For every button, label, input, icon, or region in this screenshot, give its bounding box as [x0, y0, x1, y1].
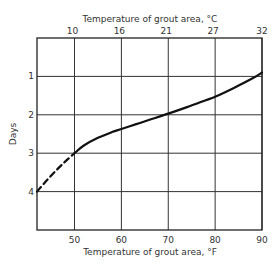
x2-tick-label: 21 — [161, 26, 172, 36]
x2-tick-label: 32 — [256, 26, 267, 36]
x-tick-label: 70 — [163, 235, 175, 245]
series-group — [37, 73, 262, 192]
x-tick-label: 50 — [69, 235, 81, 245]
plot-frame — [37, 38, 262, 230]
y-tick-labels: 1234 — [28, 71, 34, 196]
y-tick-label: 3 — [28, 148, 34, 158]
x-tick-label: 80 — [209, 235, 221, 245]
x2-tick-label: 27 — [207, 26, 218, 36]
y-axis-label: Days — [8, 122, 18, 145]
x-axis-label: Temperature of grout area, °F — [82, 247, 217, 257]
x2-tick-label: 16 — [114, 26, 126, 36]
series-line-extrapolated — [37, 153, 75, 191]
y-tick-label: 4 — [28, 187, 34, 197]
x-tick-label: 60 — [116, 235, 128, 245]
y-tick-label: 1 — [28, 71, 34, 81]
y-tick-label: 2 — [28, 110, 34, 120]
grid — [37, 38, 262, 230]
chart: 5060708090 1016212732 1234 Temperature o… — [0, 0, 278, 266]
x-tick-label: 90 — [256, 235, 268, 245]
x-tick-labels: 5060708090 — [69, 235, 268, 245]
x2-axis-label: Temperature of grout area, °C — [82, 14, 218, 24]
x2-tick-label: 10 — [67, 26, 79, 36]
x2-tick-labels: 1016212732 — [67, 26, 268, 36]
